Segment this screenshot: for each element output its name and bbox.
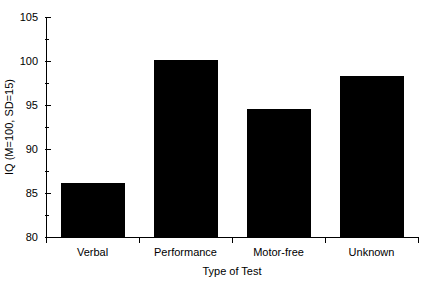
y-axis-tick-label: 95 (4, 100, 38, 111)
bar (154, 60, 218, 237)
y-axis-tick-minor (45, 83, 49, 84)
y-axis-tick-minor (45, 127, 49, 128)
y-axis-tick-major (45, 17, 51, 18)
y-axis-tick-major (45, 149, 51, 150)
y-axis-tick-label: 80 (4, 232, 38, 243)
y-axis-tick-labels: 80859095100105 (4, 0, 38, 289)
x-axis-category-label: Performance (154, 246, 217, 259)
y-axis-tick-label: 85 (4, 188, 38, 199)
y-axis-tick-label: 100 (4, 56, 38, 67)
x-axis-category-label: Motor-free (253, 246, 304, 259)
y-axis-tick-label: 90 (4, 144, 38, 155)
x-axis-category-label: Verbal (77, 246, 108, 259)
y-axis-tick-major (45, 105, 51, 106)
x-axis-tick (46, 237, 47, 243)
y-axis-tick-major (45, 193, 51, 194)
bar (340, 76, 404, 237)
chart-figure: IQ (M=100, SD=15) 80859095100105 VerbalP… (0, 0, 432, 289)
plot-area (46, 17, 418, 237)
y-axis-tick-minor (45, 39, 49, 40)
x-axis-tick (418, 237, 419, 243)
x-axis-category-labels: VerbalPerformanceMotor-freeUnknown (46, 246, 418, 262)
bar (247, 109, 311, 237)
y-axis-tick-major (45, 61, 51, 62)
y-axis-tick-minor (45, 171, 49, 172)
x-axis-category-label: Unknown (349, 246, 395, 259)
y-axis-tick-minor (45, 215, 49, 216)
bar (61, 183, 125, 237)
y-axis-tick-label: 105 (4, 12, 38, 23)
x-axis-tick (139, 237, 140, 243)
x-axis-tick (232, 237, 233, 243)
x-axis-title: Type of Test (46, 265, 418, 278)
x-axis-tick (325, 237, 326, 243)
